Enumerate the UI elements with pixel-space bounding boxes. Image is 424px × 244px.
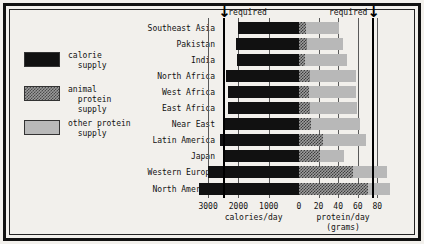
- tick-label-calories-1000: 1000: [259, 202, 278, 211]
- bar-segment-animal-protein: [299, 134, 323, 146]
- axis-title-calories: calories/day: [225, 213, 283, 222]
- bar-segment-calorie-supply: [228, 86, 299, 98]
- bar-segment-animal-protein: [299, 70, 310, 82]
- bar-segment-other-protein: [305, 54, 347, 66]
- axis-title-protein: protein/day: [317, 213, 370, 222]
- legend-label: other protein supply: [68, 119, 131, 139]
- bar-row: [196, 38, 392, 50]
- bar-row: [196, 183, 392, 195]
- bar-segment-other-protein: [306, 22, 339, 34]
- bar-segment-animal-protein: [299, 102, 310, 114]
- bar-row: [196, 86, 392, 98]
- tick-label-calories-0: 0: [297, 202, 302, 211]
- bar-row: [196, 102, 392, 114]
- bar-segment-calorie-supply: [237, 54, 299, 66]
- bar-segment-other-protein: [353, 166, 387, 178]
- plot-area: [196, 18, 392, 198]
- bar-segment-animal-protein: [299, 166, 353, 178]
- legend-label: calorie supply: [68, 51, 107, 71]
- bar-segment-animal-protein: [299, 183, 368, 195]
- bar-segment-calorie-supply: [220, 134, 299, 146]
- bar-row: [196, 166, 392, 178]
- bar-segment-animal-protein: [299, 86, 309, 98]
- bar-segment-calorie-supply: [236, 38, 299, 50]
- tick-label-protein-40: 40: [333, 202, 343, 211]
- calorie-supply-swatch: [24, 52, 60, 67]
- chart-screenshot: calorie supplyanimal protein supplyother…: [0, 0, 424, 244]
- required-line-left: [223, 18, 225, 198]
- bar-segment-calorie-supply: [199, 183, 299, 195]
- bar-segment-calorie-supply: [225, 118, 299, 130]
- bar-segment-animal-protein: [299, 22, 306, 34]
- bar-segment-other-protein: [309, 86, 356, 98]
- bar-row: [196, 54, 392, 66]
- bar-segment-animal-protein: [299, 150, 320, 162]
- bar-segment-calorie-supply: [224, 150, 299, 162]
- required-protein-label: required: [0, 8, 367, 18]
- bar-segment-calorie-supply: [208, 166, 299, 178]
- bar-row: [196, 150, 392, 162]
- bar-segment-other-protein: [307, 38, 343, 50]
- bar-row: [196, 22, 392, 34]
- bar-segment-calorie-supply: [226, 70, 299, 82]
- bar-segment-animal-protein: [299, 118, 311, 130]
- required-protein-arrow-icon: ↓: [367, 6, 380, 19]
- other-protein-swatch: [24, 120, 60, 135]
- bar-row: [196, 118, 392, 130]
- bar-segment-calorie-supply: [238, 22, 299, 34]
- tick-label-calories-3000: 3000: [198, 202, 217, 211]
- bar-segment-other-protein: [320, 150, 344, 162]
- bar-segment-other-protein: [310, 70, 356, 82]
- bar-segment-other-protein: [323, 134, 365, 146]
- bar-segment-other-protein: [311, 118, 360, 130]
- bar-row: [196, 134, 392, 146]
- bar-row: [196, 70, 392, 82]
- legend-label: animal protein supply: [68, 85, 111, 115]
- tick-label-protein-60: 60: [353, 202, 363, 211]
- animal-protein-swatch: [24, 86, 60, 101]
- tick-label-protein-20: 20: [314, 202, 324, 211]
- bar-segment-calorie-supply: [228, 102, 299, 114]
- bar-segment-animal-protein: [299, 38, 307, 50]
- bar-segment-other-protein: [310, 102, 357, 114]
- required-line-right: [372, 18, 374, 198]
- tick-label-calories-2000: 2000: [229, 202, 248, 211]
- tick-label-protein-80: 80: [372, 202, 382, 211]
- axis-title-protein-units: (grams): [326, 223, 360, 232]
- bar-segment-other-protein: [368, 183, 391, 195]
